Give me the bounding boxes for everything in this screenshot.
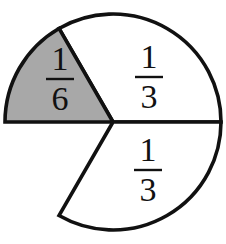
- fraction-circle-figure: 1 6 1 3 1 3: [0, 0, 226, 244]
- fraction-circle-diagram: 1 6 1 3 1 3: [0, 0, 226, 244]
